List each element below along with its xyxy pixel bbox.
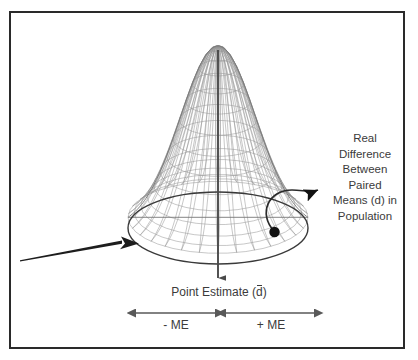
- d-bar-symbol: d: [256, 285, 263, 299]
- me-negative-label: - ME: [133, 318, 219, 332]
- figure-stage: Real Difference Between Paired Means (d)…: [0, 0, 418, 360]
- side-label-line-6: Population: [322, 209, 408, 225]
- point-estimate-prefix: Point Estimate (: [171, 285, 256, 299]
- side-label-line-1: Real: [322, 131, 408, 147]
- mesh-line: [132, 46, 218, 206]
- side-label-line-4: Paired: [322, 178, 408, 194]
- mesh-line: [218, 46, 304, 206]
- side-label-line-2: Difference: [322, 147, 408, 163]
- tail-arrow: [20, 237, 139, 262]
- d-letter: d: [256, 285, 263, 299]
- population-point-dot: [269, 227, 279, 237]
- population-difference-label: Real Difference Between Paired Means (d)…: [322, 131, 408, 225]
- side-label-line-5: Means (d) in: [322, 193, 408, 209]
- mesh-line: [218, 46, 304, 206]
- point-estimate-label: Point Estimate (d): [131, 285, 307, 299]
- me-positive-label: + ME: [224, 318, 318, 332]
- overbar: [257, 285, 262, 286]
- side-label-line-3: Between: [322, 162, 408, 178]
- point-estimate-suffix: ): [263, 285, 267, 299]
- mesh-line: [132, 46, 218, 206]
